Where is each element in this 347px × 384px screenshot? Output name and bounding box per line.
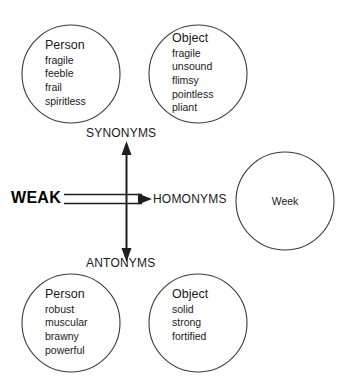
branch-label-synonyms: SYNONYMS (86, 126, 156, 140)
word-item: brawny (45, 330, 88, 344)
group-antonyms-person: Person robust muscular brawny powerful (45, 286, 88, 357)
branch-label-antonyms: ANTONYMS (86, 256, 155, 270)
word-item: pliant (172, 101, 213, 115)
group-synonyms-object: Object fragile unsound flimsy pointless … (172, 30, 213, 115)
word-item: pointless (172, 88, 213, 102)
group-synonyms-person: Person fragile feeble frail spiritless (45, 37, 86, 108)
group-antonyms-object: Object solid strong fortified (172, 286, 208, 344)
word-item: strong (172, 316, 208, 330)
word-item: frail (45, 81, 86, 95)
word-item: feeble (45, 67, 86, 81)
group-heading: Object (172, 30, 213, 47)
root-word-weak: WEAK (11, 189, 61, 207)
arrowhead-right-homonyms (138, 194, 152, 205)
group-word-list: solid strong fortified (172, 303, 208, 344)
group-heading: Person (45, 286, 88, 303)
word-item: fragile (172, 47, 213, 61)
word-item: robust (45, 303, 88, 317)
branch-label-homonyms: HOMONYMS (153, 192, 227, 206)
group-word-list: fragile unsound flimsy pointless pliant (172, 47, 213, 115)
word-item: powerful (45, 344, 88, 358)
word-item: flimsy (172, 74, 213, 88)
arrowhead-up-synonyms (122, 141, 132, 155)
group-homonyms-week: Week (235, 195, 335, 207)
word-item: fragile (45, 54, 86, 68)
word-item: fortified (172, 330, 208, 344)
group-word-list: fragile feeble frail spiritless (45, 54, 86, 109)
group-heading: Object (172, 286, 208, 303)
word-item: spiritless (45, 95, 86, 109)
group-heading: Person (45, 37, 86, 54)
word-item: muscular (45, 316, 88, 330)
word-item: solid (172, 303, 208, 317)
word-relationship-diagram: WEAK SYNONYMS ANTONYMS HOMONYMS Person f… (0, 0, 347, 384)
word-item: unsound (172, 60, 213, 74)
group-word-list: robust muscular brawny powerful (45, 303, 88, 358)
